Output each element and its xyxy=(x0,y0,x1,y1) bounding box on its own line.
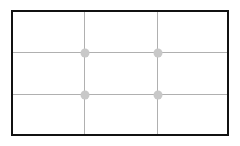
grid-line-vertical-1 xyxy=(84,12,85,134)
grid-frame xyxy=(11,10,229,136)
intersection-dot-bottom-left xyxy=(80,90,89,99)
intersection-dot-top-right xyxy=(153,48,162,57)
grid-line-vertical-2 xyxy=(157,12,158,134)
grid-line-horizontal-1 xyxy=(13,52,227,53)
intersection-dot-top-left xyxy=(80,48,89,57)
grid-line-horizontal-2 xyxy=(13,94,227,95)
intersection-dot-bottom-right xyxy=(153,90,162,99)
